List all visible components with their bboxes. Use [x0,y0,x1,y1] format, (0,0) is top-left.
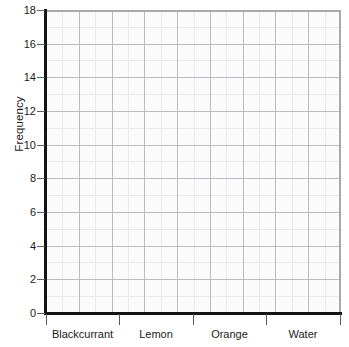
y-axis-line [44,9,47,315]
y-tick-label-18: 18 [0,5,36,16]
x-tick-4 [340,314,341,325]
gridline-horizontal-12 [46,111,341,112]
gridline-vertical-2 [112,10,113,313]
y-tick-label-14: 14 [0,72,36,83]
gridline-vertical-7 [275,10,276,313]
y-axis-title: Frequency [13,69,25,179]
gridline-vertical-5 [210,10,211,313]
x-category-label-orange: Orange [193,329,266,340]
gridline-horizontal-10 [46,145,341,146]
x-category-label-water: Water [266,329,340,340]
x-tick-3 [266,314,267,325]
plot-border-top [46,10,341,12]
gridline-vertical-4 [177,10,178,313]
x-tick-1 [119,314,120,325]
y-tick-0 [37,313,45,314]
y-tick-18 [37,10,45,11]
x-tick-2 [193,314,194,325]
y-tick-6 [37,212,45,213]
y-tick-4 [37,246,45,247]
y-tick-8 [37,178,45,179]
gridline-horizontal-8 [46,178,341,179]
plot-area [46,10,341,313]
y-tick-label-4: 4 [0,241,36,252]
y-tick-label-10: 10 [0,140,36,151]
bar-chart-figure: Frequency 18 16 14 12 10 [0,0,349,347]
y-tick-label-8: 8 [0,173,36,184]
gridline-vertical-1 [79,10,80,313]
gridline-horizontal-14 [46,77,341,78]
y-tick-12 [37,111,45,112]
gridline-vertical-8 [308,10,309,313]
y-tick-label-0: 0 [0,308,36,319]
plot-border-right [339,10,341,313]
gridline-horizontal-4 [46,246,341,247]
y-tick-2 [37,279,45,280]
y-tick-label-2: 2 [0,274,36,285]
x-category-label-lemon: Lemon [119,329,193,340]
x-category-label-blackcurrant: Blackcurrant [46,329,119,340]
y-tick-16 [37,44,45,45]
gridline-vertical-3 [144,10,145,313]
gridline-horizontal-2 [46,279,341,280]
y-tick-label-6: 6 [0,207,36,218]
y-tick-label-12: 12 [0,106,36,117]
x-tick-0 [46,314,47,325]
gridline-horizontal-6 [46,212,341,213]
minor-gridlines [46,10,341,313]
y-tick-14 [37,77,45,78]
y-tick-label-16: 16 [0,39,36,50]
gridline-vertical-6 [243,10,244,313]
y-tick-10 [37,145,45,146]
gridline-horizontal-16 [46,44,341,45]
